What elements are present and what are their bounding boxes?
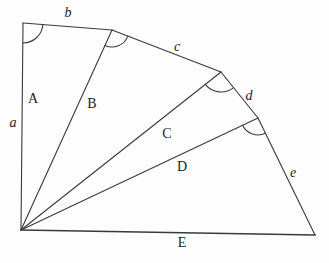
angle-arc-triangle-a	[23, 25, 43, 43]
side-label-a: a	[10, 115, 17, 130]
geometry-figure: a b c d e A B C D E	[0, 0, 329, 263]
side-label-c: c	[174, 39, 181, 54]
diagonal-apex-to-p3	[21, 72, 221, 230]
side-label-b: b	[65, 5, 72, 20]
triangle-fan-diagram: a b c d e A B C D E	[0, 0, 329, 263]
region-label-d: D	[177, 159, 187, 174]
edge-b-line	[23, 23, 112, 30]
base-edge-line	[21, 230, 315, 235]
labels-group: a b c d e A B C D E	[10, 5, 297, 250]
side-label-d: d	[246, 88, 254, 103]
region-label-b: B	[87, 96, 96, 111]
side-label-e: e	[290, 165, 296, 180]
angle-arc-triangle-c	[205, 84, 233, 92]
region-label-c: C	[162, 126, 171, 141]
region-label-a: A	[28, 91, 39, 106]
edge-a-line	[21, 23, 23, 230]
base-label-e: E	[178, 235, 187, 250]
edge-e-line	[258, 118, 315, 235]
diagonal-apex-to-p4	[21, 118, 258, 230]
diagonal-apex-to-p2	[21, 30, 112, 230]
